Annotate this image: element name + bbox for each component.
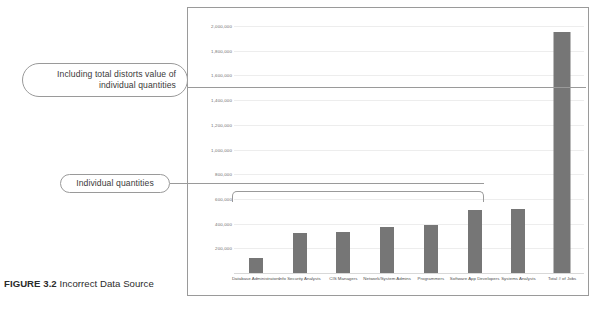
- y-axis-tick-label: 1,400,000: [192, 98, 232, 103]
- y-axis-tick-label: 600,000: [192, 196, 232, 201]
- y-axis-tick-label: 200,000: [192, 246, 232, 251]
- bar-group: Programmers: [409, 8, 453, 273]
- plot-area: 200,000400,000600,000800,0001,000,0001,2…: [188, 8, 588, 295]
- bar-series: Database AdministratorsInfo Security Ana…: [234, 8, 584, 273]
- leader-line-individual: [170, 183, 484, 184]
- callout-total-text: Including total distorts value of indivi…: [34, 69, 176, 91]
- bar-group: CIS Managers: [322, 8, 366, 273]
- bar-group: Info Security Analysts: [278, 8, 322, 273]
- y-axis-tick-label: 1,800,000: [192, 48, 232, 53]
- callout-total-distorts: Including total distorts value of indivi…: [22, 63, 188, 97]
- x-axis-tick-label: Total # of Jobs: [534, 273, 590, 282]
- figure-page: 200,000400,000600,000800,0001,000,0001,2…: [0, 0, 609, 316]
- callout-individual-text: Individual quantities: [76, 178, 154, 189]
- bar-group: Software App Developers: [453, 8, 497, 273]
- bar: [380, 227, 394, 273]
- y-axis-tick-label: 1,000,000: [192, 147, 232, 152]
- figure-title: Incorrect Data Source: [57, 278, 154, 289]
- bracket-individual-quantities: [232, 191, 484, 202]
- figure-number: FIGURE 3.2: [4, 278, 57, 289]
- bar: [554, 32, 571, 273]
- leader-line-total: [188, 87, 586, 88]
- bar-group: Systems Analysts: [497, 8, 541, 273]
- chart-frame: 200,000400,000600,000800,0001,000,0001,2…: [187, 7, 589, 296]
- bar: [468, 210, 482, 273]
- y-axis-tick-label: 400,000: [192, 221, 232, 226]
- bar: [336, 232, 350, 273]
- bar: [424, 225, 438, 273]
- callout-individual-quantities: Individual quantities: [60, 174, 170, 193]
- y-axis-tick-label: 2,000,000: [192, 24, 232, 29]
- y-axis-tick-label: 1,600,000: [192, 73, 232, 78]
- bar: [249, 258, 263, 273]
- bar-group: Total # of Jobs: [540, 8, 584, 273]
- figure-caption: FIGURE 3.2 Incorrect Data Source: [4, 277, 182, 290]
- y-axis-tick-label: 1,200,000: [192, 122, 232, 127]
- bar-group: Network/System Admins: [365, 8, 409, 273]
- bar: [511, 209, 525, 273]
- bar-group: Database Administrators: [234, 8, 278, 273]
- y-axis-tick-label: 800,000: [192, 172, 232, 177]
- bar: [293, 233, 307, 273]
